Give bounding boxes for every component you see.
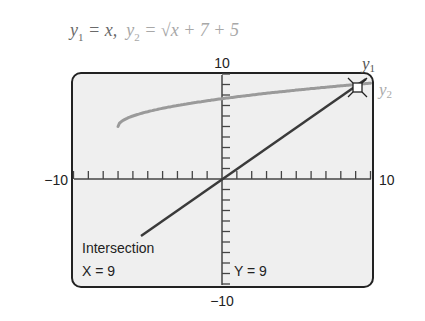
intersection-y-value: Y = 9 [234, 263, 267, 279]
y1-curve-label: y1 [360, 54, 375, 74]
graph: 10 −10 −10 10 y1 y2 Intersection X = 9 Y… [0, 0, 425, 321]
intersection-label: Intersection [82, 240, 154, 256]
x-max-label: 10 [379, 172, 395, 188]
y-max-label: 10 [214, 55, 230, 71]
y-min-label: −10 [210, 293, 234, 309]
intersection-x-value: X = 9 [82, 263, 115, 279]
y2-curve-label: y2 [377, 80, 392, 100]
x-min-label: −10 [44, 172, 68, 188]
